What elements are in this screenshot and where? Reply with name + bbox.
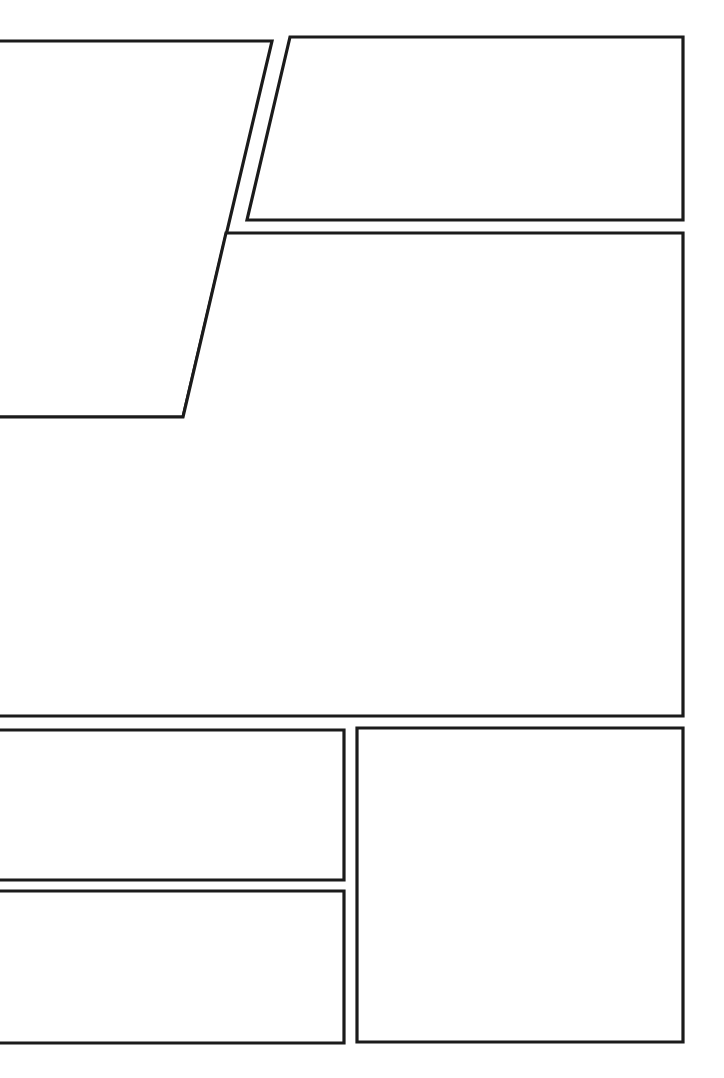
panel-5[interactable]: [0, 891, 344, 1043]
panel-2[interactable]: [247, 37, 683, 220]
panel-6[interactable]: [357, 728, 683, 1042]
panel-4[interactable]: [0, 730, 344, 880]
comic-page: [0, 0, 724, 1078]
panel-layer: [0, 0, 724, 1078]
